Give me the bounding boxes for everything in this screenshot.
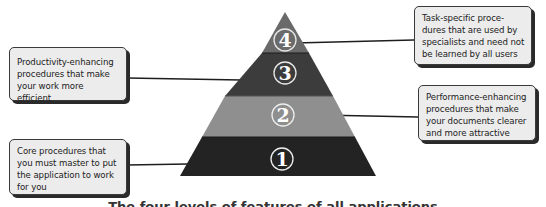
diagram-caption: The four levels of features of all appli…	[0, 200, 546, 207]
callout-line: for you	[17, 181, 120, 193]
callout-line: procedures that make	[426, 103, 529, 115]
svg-text:2: 2	[276, 104, 289, 126]
callout-line: Core procedures that	[17, 145, 120, 157]
callout-line: specialists and need not	[422, 36, 525, 48]
feature-pyramid-diagram: 4 3 2 1 Task-specific proce- dures that …	[0, 0, 546, 207]
callout-line: be learned by all users	[422, 48, 525, 60]
svg-text:1: 1	[275, 148, 288, 170]
connector-line-productivity	[127, 78, 241, 80]
svg-text:3: 3	[278, 62, 291, 84]
callout-line: procedures that make	[17, 68, 120, 80]
callout-line: Productivity-enhancing	[17, 56, 120, 68]
callout-line: and more attractive	[426, 127, 529, 139]
svg-text:4: 4	[278, 29, 291, 51]
callout-line: dures that are used by	[422, 24, 525, 36]
connector-line-task	[295, 40, 414, 43]
connector-line-core	[127, 164, 188, 165]
callout-line: the application to work	[17, 169, 120, 181]
callout-line: your documents clearer	[426, 115, 529, 127]
callout-task-specific: Task-specific proce- dures that are used…	[414, 6, 532, 65]
callout-line: Performance-enhancing	[426, 91, 529, 103]
callout-performance-enhancing: Performance-enhancing procedures that ma…	[418, 85, 536, 141]
callout-productivity-enhancing: Productivity-enhancing procedures that m…	[9, 47, 127, 101]
callout-line: you must master to put	[17, 157, 120, 169]
callout-line: Task-specific proce-	[422, 12, 525, 24]
callout-core-procedures: Core procedures that you must master to …	[9, 139, 127, 195]
callout-line: your work more efficient	[17, 80, 120, 104]
